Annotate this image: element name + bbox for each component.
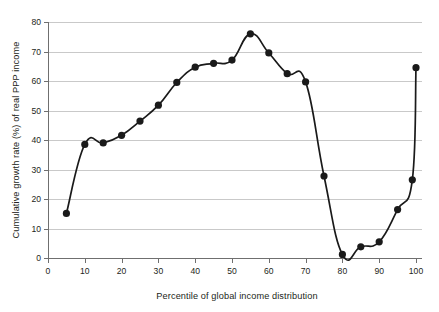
data-point-45 — [210, 60, 217, 67]
y-tick-label-0: 0 — [36, 253, 41, 263]
y-tick-label-10: 10 — [31, 224, 41, 234]
y-tick-label-60: 60 — [31, 76, 41, 86]
data-point-50 — [228, 56, 235, 63]
data-point-85 — [357, 243, 364, 250]
data-point-100 — [412, 64, 419, 71]
data-point-5 — [63, 210, 70, 217]
x-tick-label-100: 100 — [409, 266, 424, 276]
data-point-65 — [284, 70, 291, 77]
data-point-70 — [302, 78, 309, 85]
chart-background — [0, 0, 439, 312]
chart-container: 01020304050607080 0102030405060708090100… — [0, 0, 439, 312]
y-tick-label-20: 20 — [31, 194, 41, 204]
data-point-10 — [81, 141, 88, 148]
data-point-25 — [136, 118, 143, 125]
data-point-55 — [247, 30, 254, 37]
data-point-20 — [118, 132, 125, 139]
x-tick-label-10: 10 — [80, 266, 90, 276]
data-point-90 — [376, 238, 383, 245]
x-tick-label-80: 80 — [338, 266, 348, 276]
x-axis-title: Percentile of global income distribution — [156, 291, 317, 301]
data-point-15 — [100, 139, 107, 146]
y-tick-labels: 01020304050607080 — [31, 17, 41, 263]
data-point-35 — [173, 79, 180, 86]
y-tick-label-80: 80 — [31, 17, 41, 27]
x-tick-label-40: 40 — [190, 266, 200, 276]
data-point-80 — [339, 251, 346, 258]
x-tick-label-70: 70 — [301, 266, 311, 276]
data-point-99 — [409, 176, 416, 183]
x-tick-label-90: 90 — [374, 266, 384, 276]
y-tick-label-40: 40 — [31, 135, 41, 145]
y-tick-label-70: 70 — [31, 47, 41, 57]
x-tick-label-60: 60 — [264, 266, 274, 276]
data-point-40 — [192, 64, 199, 71]
data-point-95 — [394, 206, 401, 213]
y-axis-title: Cumulative growth rate (%) of real PPP i… — [11, 42, 21, 239]
y-tick-label-30: 30 — [31, 165, 41, 175]
x-tick-label-0: 0 — [46, 266, 51, 276]
x-tick-label-20: 20 — [117, 266, 127, 276]
line-chart: 01020304050607080 0102030405060708090100… — [0, 0, 439, 312]
x-tick-label-30: 30 — [154, 266, 164, 276]
data-point-30 — [155, 102, 162, 109]
data-point-60 — [265, 49, 272, 56]
y-tick-label-50: 50 — [31, 106, 41, 116]
x-tick-label-50: 50 — [227, 266, 237, 276]
data-point-75 — [320, 172, 327, 179]
